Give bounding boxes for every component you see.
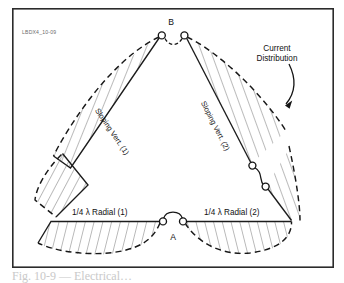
terminal-b2 [181, 32, 188, 39]
terminal-a2 [180, 218, 187, 225]
caption-strip: Fig. 10-9 — Electrical… [12, 270, 334, 283]
annotation-label-line1: Current [263, 44, 291, 53]
annotation-label-line2: Distribution [257, 54, 298, 63]
terminal-r1 [249, 162, 256, 169]
terminal-a1 [160, 218, 167, 225]
antenna-current-distribution-diagram: LBDX4_10-09 B A Sloping Vert. (1) Slopin… [0, 0, 344, 283]
apex-label-a: A [170, 232, 176, 242]
terminal-b1 [158, 32, 165, 39]
radial-1-label: 1/4 λ Radial (1) [72, 208, 128, 217]
apex-label-b: B [168, 17, 174, 27]
plate-code-label: LBDX4_10-09 [22, 29, 56, 35]
caption-text: Fig. 10-9 — Electrical… [12, 270, 334, 283]
radial-2-label: 1/4 λ Radial (2) [204, 208, 260, 217]
figure-root: LBDX4_10-09 B A Sloping Vert. (1) Slopin… [0, 0, 344, 283]
terminal-r2 [262, 183, 269, 190]
